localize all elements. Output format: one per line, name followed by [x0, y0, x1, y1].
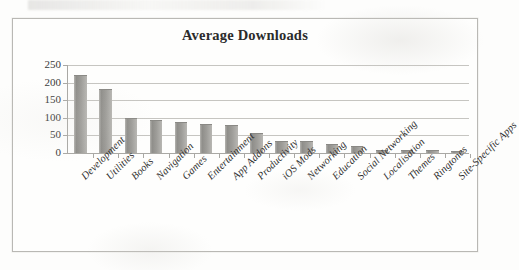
chart-frame: Average Downloads 250200150100500 Develo…	[12, 18, 478, 252]
y-axis-label: 250	[27, 59, 61, 70]
scan-smudge	[28, 0, 328, 10]
bar[interactable]	[150, 120, 163, 153]
y-tick-150	[63, 100, 67, 101]
x-tick	[420, 154, 421, 158]
y-tick-250	[63, 65, 67, 66]
bar-slot	[194, 65, 219, 153]
bar-slot	[169, 65, 194, 153]
y-axis-label: 100	[27, 112, 61, 123]
y-axis-label: 200	[27, 77, 61, 88]
y-axis-label: 50	[27, 129, 61, 140]
bar-slot	[344, 65, 369, 153]
y-axis-label: 150	[27, 94, 61, 105]
chart-title: Average Downloads	[13, 27, 477, 44]
y-tick-100	[63, 118, 67, 119]
x-tick	[219, 154, 220, 158]
x-tick	[395, 154, 396, 158]
bar[interactable]	[125, 118, 138, 153]
x-tick	[194, 154, 195, 158]
bar[interactable]	[200, 124, 213, 153]
bar[interactable]	[74, 75, 87, 153]
bar-slot	[68, 65, 93, 153]
x-axis-labels: DevelopmentUtilitiesBooksNavigationGames…	[67, 171, 487, 267]
bar-slot	[143, 65, 168, 153]
bar-slot	[445, 65, 470, 153]
bar-slot	[294, 65, 319, 153]
y-axis-label: 0	[27, 147, 61, 158]
y-tick-200	[63, 83, 67, 84]
y-tick-50	[63, 135, 67, 136]
y-tick-0	[63, 153, 67, 154]
